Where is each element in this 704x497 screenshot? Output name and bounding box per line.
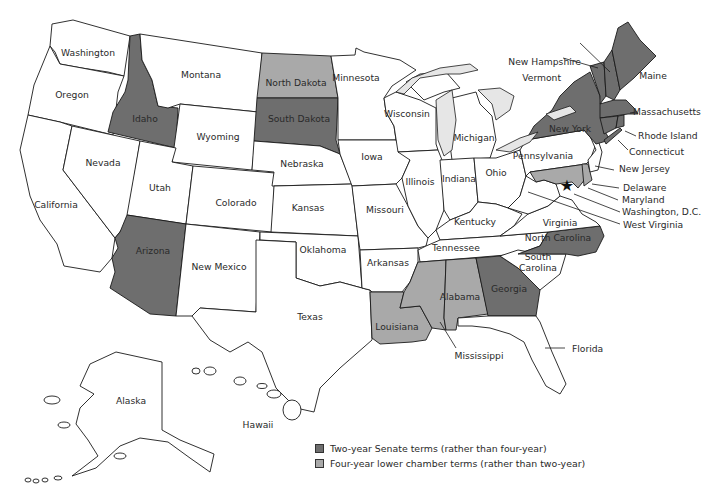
state-arizona[interactable] (110, 215, 186, 316)
label-nevada: Nevada (85, 157, 120, 168)
label-south-dakota: South Dakota (268, 113, 330, 124)
label-florida: Florida (572, 343, 603, 354)
label-wisconsin: Wisconsin (384, 108, 430, 119)
alaska-island (114, 453, 126, 459)
label-wyoming: Wyoming (196, 131, 239, 142)
label-ohio: Ohio (485, 167, 507, 178)
label-kansas: Kansas (292, 202, 325, 213)
label-alabama: Alabama (440, 291, 481, 302)
label-colorado: Colorado (215, 197, 256, 208)
legend-label: Four-year lower chamber terms (rather th… (330, 458, 585, 469)
label-minnesota: Minnesota (332, 72, 379, 83)
hawaii-island (283, 400, 301, 420)
label-rhode-island: Rhode Island (638, 130, 698, 141)
label-arkansas: Arkansas (367, 257, 409, 268)
label-georgia: Georgia (491, 283, 527, 294)
label-new-york: New York (549, 123, 592, 134)
label-tennessee: Tennessee (431, 242, 480, 253)
legend-swatch-light-icon (315, 459, 324, 468)
label-new-jersey: New Jersey (619, 163, 671, 174)
state-north-dakota[interactable] (257, 53, 338, 98)
us-states-map: ★ Washington Oregon California Nevada Id… (0, 0, 704, 497)
label-kentucky: Kentucky (454, 216, 497, 227)
label-montana: Montana (181, 69, 221, 80)
washington-dc-star-icon: ★ (560, 176, 574, 195)
label-north-dakota: North Dakota (265, 77, 326, 88)
label-washington-dc: Washington, D.C. (622, 206, 701, 217)
alaska-island (44, 396, 60, 404)
alaska-island (25, 478, 31, 482)
label-washington: Washington (61, 47, 115, 58)
label-iowa: Iowa (361, 151, 382, 162)
hawaii-island (192, 368, 200, 374)
legend-label: Two-year Senate terms (rather than four-… (330, 443, 547, 454)
label-west-virginia: West Virginia (623, 219, 683, 230)
alaska-island (54, 476, 62, 480)
label-nebraska: Nebraska (280, 158, 323, 169)
label-maine: Maine (639, 70, 667, 81)
hawaii-island (204, 367, 216, 375)
label-mississippi: Mississippi (455, 350, 504, 361)
label-north-carolina: North Carolina (525, 232, 591, 243)
label-texas: Texas (296, 311, 323, 322)
label-arizona: Arizona (136, 245, 171, 256)
label-south-carolina-line1: South (525, 251, 552, 262)
label-louisiana: Louisiana (375, 321, 418, 332)
hawaii-island (234, 377, 246, 385)
label-new-hampshire: New Hampshire (508, 56, 581, 67)
alaska-island (42, 478, 48, 482)
alaska-island (58, 422, 70, 428)
label-south-carolina-line2: Carolina (519, 262, 557, 273)
label-oklahoma: Oklahoma (300, 244, 347, 255)
label-maryland: Maryland (622, 194, 665, 205)
label-delaware: Delaware (623, 182, 667, 193)
label-hawaii: Hawaii (243, 419, 274, 430)
label-alaska: Alaska (116, 395, 146, 406)
label-new-mexico: New Mexico (191, 261, 246, 272)
hawaii-island (267, 390, 281, 398)
label-pennsylvania: Pennsylvania (513, 150, 573, 161)
alaska-island (33, 479, 39, 483)
hawaii-island (257, 384, 267, 389)
label-connecticut: Connecticut (629, 146, 684, 157)
label-massachusetts: Massachusetts (633, 106, 701, 117)
legend-swatch-dark-icon (315, 444, 324, 453)
map-legend: Two-year Senate terms (rather than four-… (315, 441, 585, 471)
label-michigan: Michigan (453, 132, 494, 143)
label-indiana: Indiana (442, 173, 476, 184)
label-utah: Utah (149, 182, 171, 193)
label-idaho: Idaho (132, 113, 158, 124)
label-oregon: Oregon (55, 89, 89, 100)
label-vermont: Vermont (522, 72, 561, 83)
label-california: California (34, 199, 78, 210)
label-virginia: Virginia (543, 217, 578, 228)
label-missouri: Missouri (366, 204, 404, 215)
legend-item-four-year-lower: Four-year lower chamber terms (rather th… (315, 456, 585, 471)
legend-item-two-year-senate: Two-year Senate terms (rather than four-… (315, 441, 585, 456)
label-illinois: Illinois (405, 176, 434, 187)
